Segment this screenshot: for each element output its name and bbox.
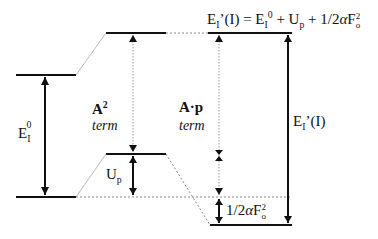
connector-lower-left	[76, 154, 106, 197]
connector-upper-left	[76, 33, 106, 75]
ap-label: A·p	[179, 100, 203, 115]
ponderomotive-label: 1/2αF2o	[226, 203, 266, 221]
a2-label: A2	[92, 100, 108, 117]
e-prime-label: EI’(I)	[293, 114, 325, 132]
a2-term-label: term	[92, 119, 118, 133]
e0-label: EI0	[18, 124, 35, 144]
connector-lower-dotted	[166, 154, 210, 225]
formula-label: EI’(I) = EI0 + Up + 1/2αF2o	[207, 10, 360, 30]
ap-term-label: term	[179, 119, 205, 133]
up-label: Up	[106, 167, 122, 185]
